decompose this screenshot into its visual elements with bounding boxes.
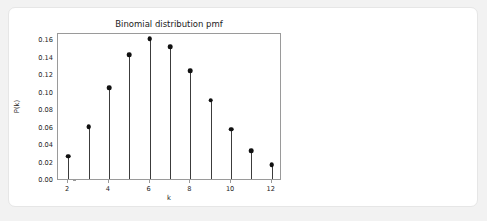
- y-tick-label: 0.14: [31, 54, 53, 61]
- chart-card: Binomial distribution pmf P(k) 0.000.020…: [8, 7, 478, 207]
- data-point-marker: [168, 45, 173, 50]
- y-tick-label: 0.04: [31, 142, 53, 149]
- x-tick-mark: [149, 180, 150, 183]
- x-tick-mark: [230, 180, 231, 183]
- y-tick-label: 0.02: [31, 159, 53, 166]
- y-tick-label: 0.10: [31, 89, 53, 96]
- y-axis-label: P(k): [13, 33, 25, 180]
- stem-line: [109, 88, 110, 179]
- data-point-marker: [249, 149, 254, 154]
- stem-line: [251, 151, 252, 179]
- data-point-marker: [127, 52, 132, 57]
- data-point-marker: [229, 127, 234, 132]
- y-tick-label: 0.12: [31, 72, 53, 79]
- data-point-marker: [107, 86, 112, 91]
- stem-line: [129, 55, 130, 179]
- y-tick-label: 0.00: [31, 177, 53, 184]
- data-point-marker: [147, 37, 152, 42]
- x-tick-label: 12: [267, 185, 275, 193]
- x-tick-label: 10: [226, 185, 234, 193]
- data-point-marker: [66, 154, 71, 159]
- x-tick-label: 2: [65, 185, 69, 193]
- x-tick-mark: [108, 180, 109, 183]
- stem-line: [150, 39, 151, 179]
- x-tick-label: 8: [187, 185, 191, 193]
- x-tick-mark: [67, 180, 68, 183]
- stem-line: [170, 47, 171, 179]
- x-tick-label: 4: [106, 185, 110, 193]
- y-tick-label: 0.06: [31, 124, 53, 131]
- chart-title: Binomial distribution pmf: [57, 19, 281, 30]
- stem-line: [231, 129, 232, 179]
- stem-line: [68, 156, 69, 179]
- figure: Binomial distribution pmf P(k) 0.000.020…: [9, 8, 309, 206]
- x-tick-mark: [271, 180, 272, 183]
- y-axis-tick-labels: 0.000.020.040.060.080.100.120.140.16: [29, 33, 53, 180]
- x-axis-label: k: [57, 194, 281, 202]
- x-tick-mark: [189, 180, 190, 183]
- data-point-marker: [270, 163, 275, 168]
- data-point-marker: [86, 124, 91, 129]
- plot-area: [58, 34, 280, 179]
- stem-line: [89, 127, 90, 180]
- x-tick-label: 6: [147, 185, 151, 193]
- screenshot-root: Binomial distribution pmf P(k) 0.000.020…: [0, 0, 487, 221]
- y-tick-label: 0.08: [31, 107, 53, 114]
- data-point-marker: [208, 98, 213, 103]
- plot-axes-frame: [57, 33, 281, 180]
- stem-line: [190, 71, 191, 180]
- data-point-marker: [188, 68, 193, 73]
- y-tick-label: 0.16: [31, 37, 53, 44]
- stem-line: [211, 100, 212, 179]
